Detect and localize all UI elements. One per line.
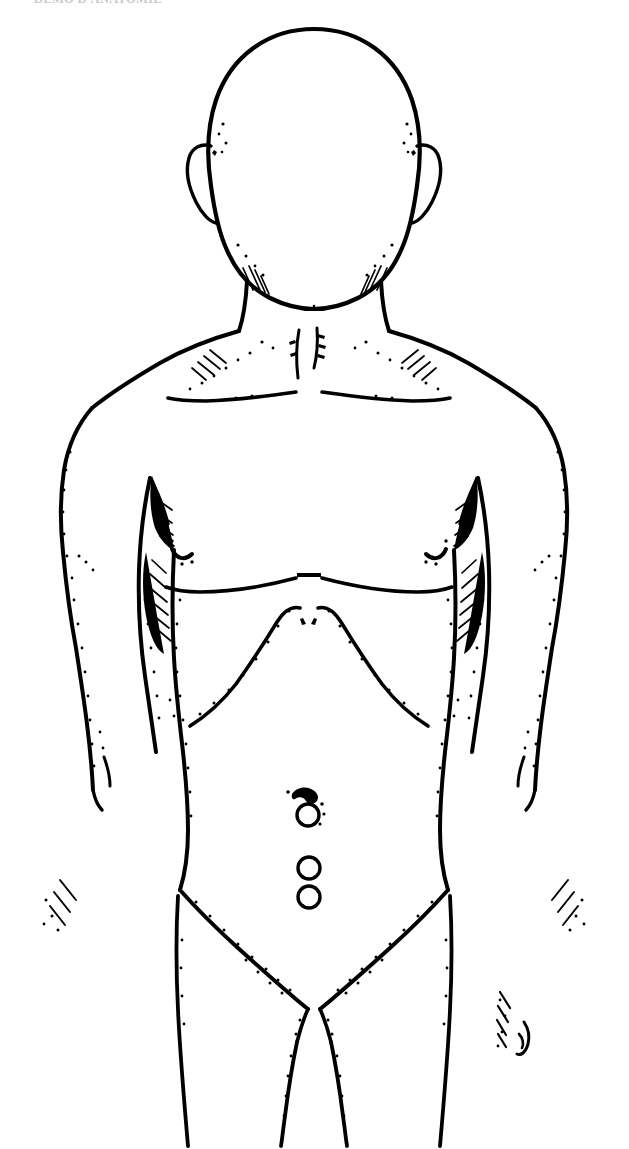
torso-region — [166, 539, 456, 890]
outer-hip-stipple — [43, 899, 586, 932]
marker-circle-1[interactable] — [297, 804, 319, 826]
marker-circle-2[interactable] — [298, 857, 320, 879]
right-nipple — [424, 539, 447, 565]
left-trap-hatching — [192, 350, 226, 380]
torso-diagram-svg — [0, 0, 629, 1149]
marker-circle-3[interactable] — [298, 886, 320, 908]
anatomical-figure — [0, 0, 629, 1149]
figure-page: DEMO D'ANATOMIE — [0, 0, 629, 1149]
right-arm-region — [453, 408, 568, 1055]
right-arm-stipple — [453, 451, 567, 1048]
pelvis-region — [43, 880, 586, 1146]
right-hand-detail — [517, 1022, 529, 1055]
right-trap-hatching — [402, 350, 436, 380]
shoulder-region — [92, 331, 536, 408]
head-region — [187, 29, 440, 309]
shoulder-stipple — [189, 340, 440, 399]
jaw-shadow-hatching — [243, 266, 387, 294]
abdominal-marker-circles[interactable] — [297, 804, 320, 908]
left-arm-region — [61, 408, 176, 810]
